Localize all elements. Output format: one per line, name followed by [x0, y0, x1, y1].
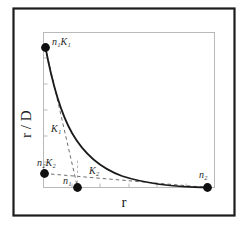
point-n2k2: [40, 169, 49, 178]
point-n1k1: [41, 43, 50, 52]
point-n2: [203, 183, 212, 192]
x-axis-label: r: [122, 194, 127, 210]
figure-svg: n₁K₁ n₂K₂ n₁ n₂ K₁ K₂ r / D r: [0, 0, 248, 230]
label-n1: n₁: [63, 175, 71, 186]
label-n1k1: n₁K₁: [52, 36, 71, 47]
point-n1: [73, 183, 82, 192]
label-k2: K₂: [88, 165, 100, 176]
y-axis-label: r / D: [18, 110, 34, 138]
label-k1: K₁: [50, 123, 61, 134]
label-n2k2: n₂K₂: [37, 157, 56, 168]
label-n2: n₂: [199, 169, 208, 180]
figure-container: n₁K₁ n₂K₂ n₁ n₂ K₁ K₂ r / D r: [0, 0, 248, 230]
